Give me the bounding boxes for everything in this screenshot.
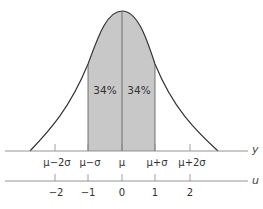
shaded-region	[88, 11, 155, 151]
region-label-right: 34%	[127, 84, 150, 96]
u-axis-name: u	[252, 174, 259, 187]
u-tick-label: 1	[152, 187, 158, 198]
u-tick-label: −2	[49, 187, 64, 198]
normal-distribution-diagram: 34% 34% y μ−2σ μ−σ μ μ+σ μ+2σ u −2 −1 0 …	[0, 0, 263, 209]
y-tick-label: μ+σ	[146, 157, 168, 168]
y-tick-label: μ	[119, 157, 126, 168]
u-tick-label: 0	[119, 187, 125, 198]
u-axis-ticks	[55, 174, 190, 181]
y-axis-name: y	[251, 143, 259, 156]
u-tick-label: −1	[81, 187, 96, 198]
y-tick-label: μ−2σ	[43, 157, 71, 168]
u-tick-label: 2	[187, 187, 193, 198]
region-label-left: 34%	[93, 84, 116, 96]
y-tick-label: μ−σ	[79, 157, 101, 168]
y-tick-label: μ+2σ	[178, 157, 206, 168]
